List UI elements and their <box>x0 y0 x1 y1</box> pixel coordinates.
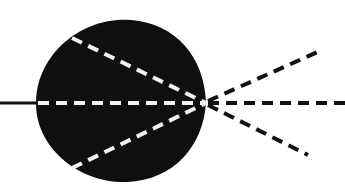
ray-diagram-canvas <box>0 0 345 189</box>
ray-diagram-figure <box>0 0 345 189</box>
